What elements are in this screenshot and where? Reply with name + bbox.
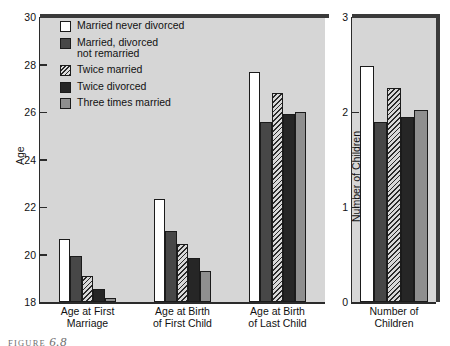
bar xyxy=(188,258,199,302)
legend-item: Married, divorced not remarried xyxy=(60,37,184,60)
y-tick-label: 1 xyxy=(342,202,348,213)
legend-item-label: Twice married xyxy=(77,64,142,76)
y-tick-mark xyxy=(40,64,47,66)
category-label: Age at First Marriage xyxy=(40,305,135,329)
bar xyxy=(59,239,70,302)
bar xyxy=(260,122,271,303)
bar xyxy=(200,271,211,302)
y-tick-label: 0 xyxy=(342,297,348,308)
legend-swatch-black xyxy=(60,82,71,93)
bar xyxy=(387,88,400,302)
bar xyxy=(295,112,306,302)
legend-item: Twice married xyxy=(60,64,184,76)
legend-swatch-dark xyxy=(60,38,71,49)
y-tick-mark xyxy=(40,254,47,256)
bar xyxy=(93,289,104,302)
bar xyxy=(283,114,294,302)
children-chart-y-axis-title: Number of Children xyxy=(350,131,362,222)
legend-item: Married never divorced xyxy=(60,20,184,32)
legend-swatch-gray xyxy=(60,98,71,109)
y-tick-label: 26 xyxy=(24,107,36,118)
legend-item: Three times married xyxy=(60,97,184,109)
bar xyxy=(165,231,176,302)
y-tick-mark xyxy=(40,207,47,209)
y-tick-label: 28 xyxy=(24,60,36,71)
children-chart-top-shadow xyxy=(352,14,440,18)
y-tick-mark xyxy=(352,112,359,114)
bar xyxy=(360,66,373,302)
y-tick-label: 20 xyxy=(24,250,36,261)
y-tick-label: 22 xyxy=(24,202,36,213)
y-tick-mark xyxy=(40,112,47,114)
legend-swatch-white xyxy=(60,21,71,32)
bar xyxy=(177,244,188,302)
bar xyxy=(70,256,81,302)
bar xyxy=(154,199,165,302)
age-chart-y-axis-title: Age xyxy=(14,147,26,166)
y-tick-label: 30 xyxy=(24,12,36,23)
bar xyxy=(249,72,260,302)
legend-swatch-hatch xyxy=(60,65,71,76)
children-chart-x-axis-line xyxy=(351,302,437,304)
legend-item-label: Twice divorced xyxy=(77,81,146,93)
legend-item-label: Married, divorced not remarried xyxy=(77,37,158,60)
legend-item: Twice divorced xyxy=(60,81,184,93)
category-label: Age at Birth of Last Child xyxy=(230,305,325,329)
age-chart-top-shadow xyxy=(40,14,329,18)
y-tick-mark xyxy=(40,159,47,161)
bar xyxy=(272,93,283,302)
age-chart-x-axis-line xyxy=(39,302,326,304)
figure-caption: FIGURE 6.8 xyxy=(8,334,67,346)
category-label: Number of Children xyxy=(352,305,436,329)
y-tick-label: 18 xyxy=(24,297,36,308)
bar xyxy=(105,298,116,302)
legend-item-label: Three times married xyxy=(77,97,171,109)
figure-caption-number: 6.8 xyxy=(49,334,67,346)
y-tick-label: 24 xyxy=(24,155,36,166)
legend-item-label: Married never divorced xyxy=(77,20,184,32)
bar xyxy=(82,276,93,302)
bar xyxy=(401,117,414,302)
y-tick-label: 2 xyxy=(342,107,348,118)
y-tick-label: 3 xyxy=(342,12,348,23)
children-chart-right-shadow xyxy=(436,14,440,302)
figure-caption-prefix: FIGURE xyxy=(8,338,46,346)
chart-legend: Married never divorcedMarried, divorced … xyxy=(60,20,184,114)
bar xyxy=(374,122,387,302)
category-label: Age at Birth of First Child xyxy=(135,305,230,329)
bar xyxy=(414,110,427,302)
